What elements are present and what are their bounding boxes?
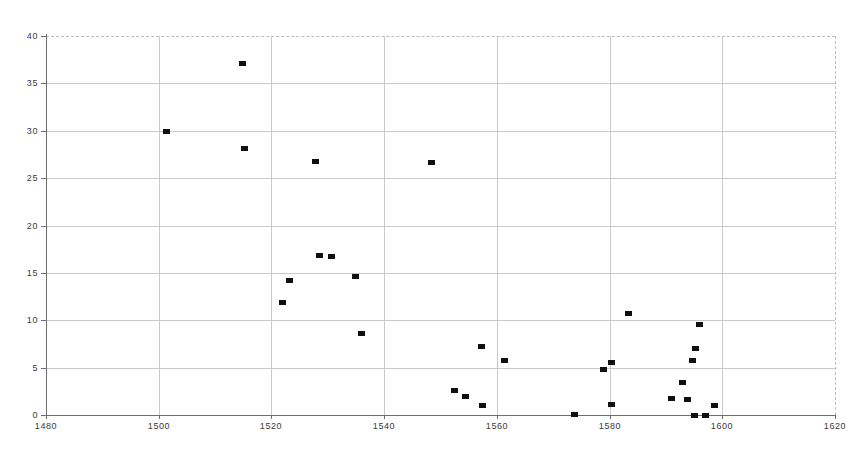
- data-point: [358, 331, 365, 336]
- gridline-x-1520: [271, 36, 272, 415]
- x-tick-label-1520: 1520: [251, 421, 291, 431]
- y-tick-mark-30: [41, 131, 46, 132]
- data-point: [479, 403, 486, 408]
- x-tick-mark-1560: [497, 415, 498, 419]
- x-tick-label-1540: 1540: [364, 421, 404, 431]
- data-point: [711, 403, 718, 408]
- x-tick-mark-1520: [271, 415, 272, 419]
- data-point: [692, 346, 699, 351]
- gridline-x-1560: [497, 36, 498, 415]
- data-point: [462, 394, 469, 399]
- data-point: [239, 61, 246, 66]
- data-point: [478, 344, 485, 349]
- y-tick-mark-5: [41, 368, 46, 369]
- x-tick-mark-1500: [159, 415, 160, 419]
- data-point: [691, 413, 698, 418]
- data-point: [501, 358, 508, 363]
- data-point: [684, 397, 691, 402]
- plot-frame-top-border: [46, 36, 835, 37]
- y-tick-mark-15: [41, 273, 46, 274]
- data-point: [279, 300, 286, 305]
- y-tick-label-40: 40: [27, 31, 38, 41]
- gridline-y-35: [46, 83, 835, 84]
- data-point: [679, 380, 686, 385]
- data-point: [571, 412, 578, 417]
- data-point: [625, 311, 632, 316]
- data-point: [163, 129, 170, 134]
- data-point: [668, 396, 675, 401]
- x-tick-label-1580: 1580: [590, 421, 630, 431]
- data-point: [328, 254, 335, 259]
- data-point: [428, 160, 435, 165]
- y-tick-label-15: 15: [27, 268, 38, 278]
- x-tick-label-1480: 1480: [26, 421, 66, 431]
- data-point: [312, 159, 319, 164]
- data-point: [352, 274, 359, 279]
- y-tick-mark-35: [41, 83, 46, 84]
- data-point: [316, 253, 323, 258]
- y-tick-label-20: 20: [27, 221, 38, 231]
- gridline-y-10: [46, 320, 835, 321]
- x-axis-line: [45, 415, 836, 416]
- y-tick-label-10: 10: [27, 315, 38, 325]
- y-tick-mark-25: [41, 178, 46, 179]
- x-tick-mark-1620: [835, 415, 836, 419]
- x-tick-label-1600: 1600: [702, 421, 742, 431]
- data-point: [608, 402, 615, 407]
- y-tick-label-25: 25: [27, 173, 38, 183]
- gridline-y-5: [46, 368, 835, 369]
- x-tick-label-1560: 1560: [477, 421, 517, 431]
- data-point: [286, 278, 293, 283]
- y-axis-line: [46, 34, 47, 417]
- x-tick-mark-1480: [46, 415, 47, 419]
- gridline-y-15: [46, 273, 835, 274]
- y-tick-mark-40: [41, 36, 46, 37]
- gridline-x-1600: [722, 36, 723, 415]
- y-tick-label-0: 0: [32, 410, 38, 420]
- scatter-chart: 0510152025303540 14801500152015401560158…: [0, 0, 859, 460]
- data-point: [696, 322, 703, 327]
- x-tick-mark-1600: [722, 415, 723, 419]
- y-tick-label-5: 5: [32, 363, 38, 373]
- x-tick-mark-1540: [384, 415, 385, 419]
- y-tick-label-35: 35: [27, 78, 38, 88]
- gridline-y-25: [46, 178, 835, 179]
- data-point: [241, 146, 248, 151]
- gridline-x-1580: [610, 36, 611, 415]
- y-tick-mark-10: [41, 320, 46, 321]
- data-point: [600, 367, 607, 372]
- plot-frame-right-border: [835, 36, 836, 415]
- data-point: [702, 413, 709, 418]
- gridline-x-1540: [384, 36, 385, 415]
- x-tick-mark-1580: [610, 415, 611, 419]
- x-tick-label-1500: 1500: [139, 421, 179, 431]
- data-point: [451, 388, 458, 393]
- gridline-y-20: [46, 226, 835, 227]
- y-tick-mark-20: [41, 226, 46, 227]
- data-point: [689, 358, 696, 363]
- y-tick-label-30: 30: [27, 126, 38, 136]
- data-point: [608, 360, 615, 365]
- gridline-x-1500: [159, 36, 160, 415]
- x-tick-label-1620: 1620: [815, 421, 855, 431]
